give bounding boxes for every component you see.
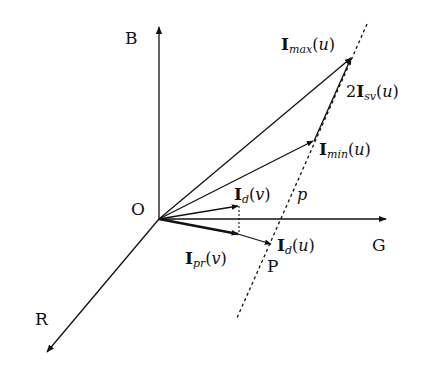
label-line-p: p: [297, 185, 307, 204]
label-i-pr-v: Ipr(v): [185, 248, 227, 270]
label-o: O: [131, 199, 145, 219]
vector-i-d-u: [238, 234, 271, 244]
label-i-min: Imin(u): [319, 139, 371, 161]
vector-i-pr-v: [159, 219, 238, 234]
label-b: B: [125, 28, 138, 48]
label-point-p: P: [267, 256, 278, 276]
red-axis: [47, 219, 159, 352]
label-i-max: Imax(u): [281, 34, 335, 56]
label-g: G: [372, 235, 386, 255]
dashed-line-p: [237, 24, 367, 318]
label-i-d-u: Id(u): [277, 235, 315, 257]
label-i-d-v: Id(v): [234, 184, 271, 206]
vector-diagram: B G R O Imax(u) 2Isv(u) Imin(u) Id(v) Id…: [0, 0, 437, 371]
label-2i-sv: 2Isv(u): [346, 81, 399, 103]
label-r: R: [35, 309, 49, 329]
vector-i-min: [159, 141, 313, 219]
